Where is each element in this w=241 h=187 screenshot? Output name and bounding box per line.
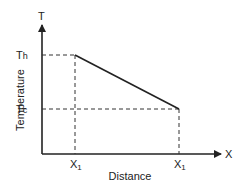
y-axis-title: Temperature [14, 69, 26, 131]
x1-right-label: X1 [174, 158, 186, 172]
x-axis-title: Distance [109, 170, 152, 182]
y-axis-symbol: T [38, 10, 45, 22]
x-axis-symbol: X [225, 148, 233, 160]
th-label: Th [16, 49, 28, 61]
temperature-line [75, 55, 179, 109]
x1-left-label: X1 [70, 158, 82, 172]
temperature-distance-diagram: T X Th Tc X1 X1 Temperature Distance [0, 0, 241, 187]
